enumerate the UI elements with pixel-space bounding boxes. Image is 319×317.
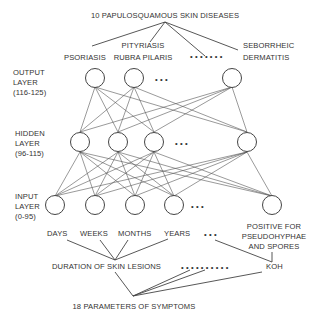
- input-node: [263, 196, 282, 215]
- output-layer-range: (116-125): [13, 88, 47, 97]
- output-layer-ellipsis: • • •: [155, 75, 168, 84]
- input-node: [86, 196, 105, 215]
- input-koh-line2: PSEUDOHYPHAE: [242, 232, 307, 241]
- hidden-layer-nodes: [71, 133, 257, 152]
- neural-network-diagram: 10 PAPULOSQUAMOUS SKIN DISEASES PSORIASI…: [0, 0, 319, 317]
- input-days: DAYS: [47, 229, 68, 238]
- input-weeks: WEEKS: [80, 229, 108, 238]
- disease-seb-line2: DERMATITIS: [243, 53, 289, 62]
- disease-ellipsis: • • • • • • •: [190, 52, 223, 61]
- input-layer-label-line1: INPUT: [15, 192, 39, 201]
- hidden-node: [71, 133, 90, 152]
- input-layer-ellipsis: • • •: [191, 202, 204, 211]
- hidden-node: [145, 133, 164, 152]
- symptoms-title: 18 PARAMETERS OF SYMPTOMS: [73, 302, 196, 311]
- input-node: [126, 196, 145, 215]
- input-layer-range: (0-95): [15, 212, 36, 221]
- output-hidden-edges: [80, 87, 247, 132]
- hidden-layer-range: (96-115): [15, 149, 44, 158]
- disease-seb-line1: SEBORRHEIC: [243, 41, 295, 50]
- output-layer-label: OUTPUT LAYER (116-125): [13, 68, 47, 97]
- input-koh-line3: AND SPORES: [249, 242, 300, 251]
- hidden-layer-label-line2: LAYER: [15, 139, 40, 148]
- output-node: [223, 69, 242, 88]
- output-layer-label-line2: LAYER: [13, 78, 38, 87]
- duration-tree-lines: [67, 239, 272, 262]
- hidden-node: [238, 133, 257, 152]
- disease-prp-line1: PITYRIASIS: [122, 41, 165, 50]
- disease-prp-line2: RUBRA PILARIS: [114, 53, 173, 62]
- hidden-layer-label-line1: HIDDEN: [15, 129, 45, 138]
- symptom-koh: KOH: [266, 262, 283, 271]
- input-koh-line1: POSITIVE FOR: [247, 222, 302, 231]
- hidden-input-edges: [55, 152, 272, 196]
- hidden-layer-label: HIDDEN LAYER (96-115): [15, 129, 45, 158]
- input-layer-label-line2: LAYER: [15, 202, 40, 211]
- symptoms-tree-lines: [115, 270, 262, 296]
- disease-tree-lines: [92, 22, 238, 56]
- hidden-layer-ellipsis: • • •: [175, 139, 188, 148]
- input-layer-label: INPUT LAYER (0-95): [15, 192, 40, 221]
- hidden-node: [109, 133, 128, 152]
- input-node: [46, 196, 65, 215]
- diseases-title: 10 PAPULOSQUAMOUS SKIN DISEASES: [91, 11, 239, 20]
- input-layer-nodes: [46, 196, 282, 215]
- input-years: YEARS: [164, 229, 190, 238]
- output-node: [125, 69, 144, 88]
- output-node: [86, 69, 105, 88]
- input-ellipsis: • • •: [204, 230, 217, 239]
- input-node: [165, 196, 184, 215]
- output-layer-label-line1: OUTPUT: [13, 68, 45, 77]
- symptom-duration: DURATION OF SKIN LESIONS: [52, 262, 161, 271]
- disease-psoriasis: PSORIASIS: [64, 53, 106, 62]
- input-months: MONTHS: [118, 229, 152, 238]
